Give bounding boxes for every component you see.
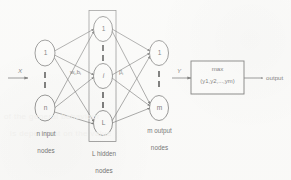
input-node-1-label: 1 — [41, 50, 50, 57]
output-caption-line1: m output — [136, 128, 183, 134]
beta-subscript: i — [122, 71, 123, 76]
bias-subscript: i — [80, 71, 81, 76]
hidden-to-output-edges — [112, 29, 150, 123]
input-caption-line1: n input — [25, 131, 67, 137]
output-node-1-label: 1 — [155, 50, 164, 57]
final-output-label: output — [266, 75, 283, 81]
max-argument-label: (y1,y2,...,ym) — [191, 79, 244, 85]
input-node-n-label: n — [41, 105, 50, 112]
hidden-caption-line2: nodes — [80, 168, 128, 174]
input-signal-label: X — [18, 68, 22, 74]
hidden-node-i-label: i — [99, 73, 108, 80]
hidden-node-L-label: L — [99, 120, 108, 127]
hidden-caption-line1: L hidden — [80, 151, 128, 157]
output-node-m-label: m — [155, 105, 164, 112]
hidden-node-1-label: 1 — [99, 26, 108, 33]
max-operator-label: max — [191, 66, 244, 72]
input-to-hidden-edges — [55, 29, 95, 124]
y-signal-label: Y — [177, 68, 181, 74]
output-caption-line2: nodes — [136, 145, 183, 151]
weight-bias-label: wi,bi — [70, 70, 81, 76]
input-caption-line2: nodes — [25, 148, 67, 154]
elm-network-diagram: of the general behaviour is dependent on… — [0, 0, 291, 180]
beta-label: βi — [119, 70, 123, 76]
